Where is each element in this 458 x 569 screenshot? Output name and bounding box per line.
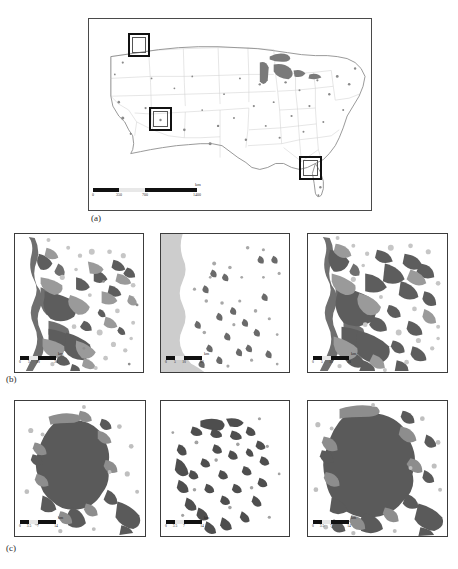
scalebar-tick: 20 [347,360,351,364]
scalebar-tick: 3.5 [27,524,32,528]
scalebar-tick: 5 [321,360,323,364]
panel-a-overview-map [88,18,372,211]
scalebar-ticks: 0 5 10 20 [313,360,349,368]
scalebar-tile-c-left: 0 3.5 7 14 km [20,520,56,532]
scalebar-tick: 350 [116,192,122,197]
panel-caption-b: (b) [6,374,17,384]
urban-extent-map-c-left [15,401,145,536]
scalebar-tick: 1400 [193,192,201,197]
aoi-box-southeast [299,156,322,180]
urban-extent-map-b-middle [161,234,289,372]
scalebar-ticks: 0 3.5 7 14 [313,524,349,532]
aoi-box-pacific-northwest [128,33,150,57]
scalebar-tick: 7 [330,524,332,528]
urban-extent-map-b-left [15,234,143,372]
scalebar-tick: 0 [312,360,314,364]
scalebar-tick: 3.5 [320,524,325,528]
scalebar-tick: 0 [92,192,94,197]
scalebar-unit-label: km [204,515,209,520]
panel-caption-c: (c) [6,543,16,553]
scalebar-tile-c-middle: 0 3.5 7 14 km [166,520,202,532]
tile-c-middle: 0 3.5 7 14 km [160,400,290,537]
scalebar-ticks: 0 350 700 1400 [93,192,197,200]
scalebar-ticks: 0 5 10 20 [20,360,56,368]
scalebar-tick: 0 [19,360,21,364]
tile-c-left: 0 3.5 7 14 km [14,400,146,537]
scalebar-unit-label: km [58,351,63,356]
scalebar-tick: 7 [37,524,39,528]
panel-b-row: 0 5 10 20 km [0,233,458,381]
scalebar-tick: 14 [200,524,204,528]
scalebar-tick: 10 [182,360,186,364]
tile-b-left: 0 5 10 20 km [14,233,144,373]
urban-extent-map-c-right [308,401,447,536]
aoi-box-southwest [149,107,172,131]
tile-b-middle: 0 5 10 20 km [160,233,290,373]
scalebar-tick: 10 [329,360,333,364]
scalebar-tile-c-right: 0 3.5 7 14 km [313,520,349,532]
aoi-box-inner [303,160,318,176]
scalebar-tick: 14 [54,524,58,528]
scalebar-tick: 5 [174,360,176,364]
urban-extent-map-c-middle [161,401,289,536]
scalebar-ticks: 0 3.5 7 14 [166,524,202,532]
scalebar-tick: 5 [28,360,30,364]
scalebar-unit-label: km [204,351,209,356]
scalebar-ticks: 0 5 10 20 [166,360,202,368]
scalebar-ticks: 0 3.5 7 14 [20,524,56,532]
tile-c-right: 0 3.5 7 14 km [307,400,448,537]
scalebar-tick: 7 [183,524,185,528]
scalebar-tick: 0 [165,360,167,364]
tile-b-right: 0 5 10 20 km [307,233,448,373]
scalebar-tick: 3.5 [173,524,178,528]
scalebar-tick: 14 [347,524,351,528]
panel-c-row: 0 3.5 7 14 km [0,400,458,548]
scalebar-tick: 20 [200,360,204,364]
scalebar-tick: 10 [36,360,40,364]
scalebar-tick: 0 [19,524,21,528]
scalebar-tick: 20 [54,360,58,364]
scalebar-unit-label: km [351,515,356,520]
scalebar-national: 0 350 700 1400 km [93,188,197,200]
scalebar-tile-b-middle: 0 5 10 20 km [166,356,202,368]
aoi-box-inner [132,37,146,53]
scalebar-tick: 0 [165,524,167,528]
scalebar-tick: 0 [312,524,314,528]
urban-extent-map-b-right [308,234,447,372]
panel-caption-a: (a) [91,213,101,223]
scalebar-tile-b-left: 0 5 10 20 km [20,356,56,368]
scalebar-tick: 700 [142,192,148,197]
aoi-box-inner [153,111,168,127]
scalebar-tile-b-right: 0 5 10 20 km [313,356,349,368]
scalebar-unit-label: km [351,351,356,356]
scalebar-unit-label: km [58,515,63,520]
scalebar-unit-label: km [195,182,201,187]
